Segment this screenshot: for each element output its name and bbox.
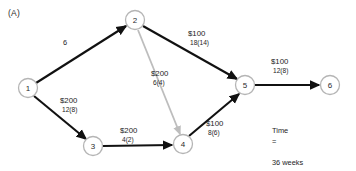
summary-cost-key: Cost <box>272 169 294 171</box>
edge-label-5-to-6: $100 12(8) <box>271 57 288 75</box>
edge-3-to-4-duration: 4(2) <box>120 136 137 144</box>
node-6-label: 6 <box>328 81 333 90</box>
edge-4-to-5-duration: 8(6) <box>206 129 223 137</box>
summary-time-row: Time= 36 weeks <box>272 126 303 169</box>
edge-3-to-4 <box>103 145 172 146</box>
edge-label-2-to-5: $100 18(14) <box>188 29 209 47</box>
summary-time-eq: = <box>272 137 303 148</box>
edge-1-to-3-cost: $200 <box>60 96 77 106</box>
node-3-label: 3 <box>91 142 96 151</box>
summary-time-key: Time <box>272 126 294 137</box>
edge-1-to-2-duration: 6 <box>63 38 67 47</box>
edge-2-to-5-cost: $100 <box>188 29 209 39</box>
summary-cost-row: Cost= $7,200 <box>272 169 303 171</box>
project-summary: Time= 36 weeks Cost= $7,200 <box>272 126 303 171</box>
edge-5-to-6-duration: 12(8) <box>271 67 288 75</box>
edge-label-4-to-5: $100 8(6) <box>206 119 223 137</box>
network-diagram-figure: (A) 1 2 3 4 <box>0 0 356 171</box>
edge-2-to-4-cost: $200 <box>151 69 168 79</box>
edge-label-1-to-2: 6 <box>63 38 67 47</box>
edge-2-to-4-duration: 6(4) <box>151 79 168 87</box>
edge-3-to-4-cost: $200 <box>120 126 137 136</box>
node-2-label: 2 <box>133 16 138 25</box>
node-1-label: 1 <box>26 84 31 93</box>
edge-1-to-3-duration: 12(8) <box>60 106 77 114</box>
edge-4-to-5-cost: $100 <box>206 119 223 129</box>
node-4-label: 4 <box>181 140 186 149</box>
edge-5-to-6-cost: $100 <box>271 57 288 67</box>
summary-time-value: 36 weeks <box>272 158 303 169</box>
edge-label-1-to-3: $200 12(8) <box>60 96 77 114</box>
edge-1-to-2 <box>36 26 126 83</box>
node-5-label: 5 <box>243 81 248 90</box>
edge-label-2-to-4: $200 6(4) <box>151 69 168 87</box>
edge-2-to-5-duration: 18(14) <box>188 39 209 47</box>
edge-label-3-to-4: $200 4(2) <box>120 126 137 144</box>
